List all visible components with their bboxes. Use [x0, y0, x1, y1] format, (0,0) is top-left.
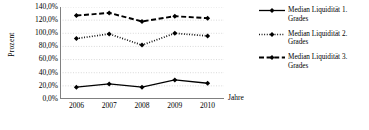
legend-label-line2: Grades [288, 62, 369, 71]
legend-item[interactable]: Median Liquidität 3.Grades [258, 53, 369, 70]
x-tick-label: 2010 [191, 101, 225, 110]
y-tick-label: 40,0% [39, 69, 58, 77]
y-tick-label: 0,0% [42, 95, 58, 103]
legend-label-line2: Grades [288, 15, 369, 24]
data-point-marker [172, 77, 177, 82]
y-axis-line [60, 7, 61, 99]
legend-item[interactable]: Median Liquidität 2.Grades [258, 30, 369, 47]
legend: Median Liquidität 1.GradesMedian Liquidi… [258, 6, 369, 77]
data-point-marker [140, 43, 145, 48]
data-point-marker [140, 85, 145, 90]
y-tick-label: 60,0% [39, 55, 58, 63]
data-point-marker [74, 36, 79, 41]
plot-svg [60, 7, 224, 99]
x-axis-title: Jahre [228, 93, 244, 102]
data-point-marker [140, 19, 145, 24]
legend-line-swatch-icon [258, 6, 288, 15]
y-tick-label: 100,0% [35, 29, 58, 37]
data-point-marker [172, 31, 177, 36]
y-tick-label: 20,0% [39, 82, 58, 90]
data-series-layer [74, 10, 210, 89]
x-tick-label: 2009 [158, 101, 192, 110]
y-tick-label: 140,0% [35, 3, 58, 11]
legend-label-line2: Grades [288, 38, 369, 47]
data-point-marker [107, 10, 112, 15]
data-point-marker [107, 31, 112, 36]
legend-label-line1: Median Liquidität 1. [288, 6, 369, 15]
legend-item-label: Median Liquidität 3.Grades [288, 53, 369, 70]
data-point-marker [172, 14, 177, 19]
data-point-marker [205, 33, 210, 38]
liquidity-median-line-chart: Prozent Jahre 140,0%120,0%100,0%80,0%60,… [0, 0, 369, 130]
legend-line-swatch-icon [258, 30, 288, 39]
data-point-marker [74, 85, 79, 90]
y-axis-tick-labels: 140,0%120,0%100,0%80,0%60,0%40,0%20,0%0,… [14, 0, 58, 130]
y-tick-label: 80,0% [39, 42, 58, 50]
legend-label-line1: Median Liquidität 3. [288, 53, 369, 62]
data-point-marker [74, 13, 79, 18]
legend-item-label: Median Liquidität 2.Grades [288, 30, 369, 47]
legend-label-line1: Median Liquidität 2. [288, 30, 369, 39]
legend-item[interactable]: Median Liquidität 1.Grades [258, 6, 369, 23]
legend-line-swatch-icon [258, 53, 288, 62]
data-point-marker [205, 81, 210, 86]
x-tick-label: 2008 [125, 101, 159, 110]
plot-area [60, 7, 224, 99]
x-tick-label: 2007 [92, 101, 126, 110]
y-tick-label: 120,0% [35, 16, 58, 24]
x-tick-label: 2006 [59, 101, 93, 110]
legend-item-label: Median Liquidität 1.Grades [288, 6, 369, 23]
